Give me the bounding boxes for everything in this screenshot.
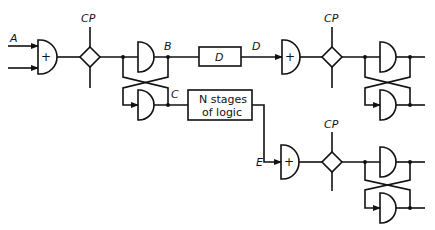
latch-3-and-bottom <box>380 193 396 223</box>
wire-e <box>252 105 281 162</box>
delay-block-label: D <box>215 51 223 64</box>
latch-3-and-top <box>380 147 396 177</box>
logic-block-line1: N stages <box>199 93 247 106</box>
label-c: C <box>171 88 179 101</box>
stage-3: + CP <box>281 118 425 223</box>
label-cp-2: CP <box>324 12 339 25</box>
clock-gate-1 <box>80 47 100 67</box>
latch-2-and-top <box>380 42 396 72</box>
logic-diagram: A + CP B C D D N stages of logic E <box>0 0 435 230</box>
label-cp-3: CP <box>324 118 339 131</box>
label-cp-1: CP <box>81 12 96 25</box>
label-d: D <box>252 40 260 53</box>
or-symbol-1: + <box>41 50 51 64</box>
label-a: A <box>9 32 18 45</box>
clock-gate-2 <box>322 47 342 67</box>
or-symbol-2: + <box>285 50 295 64</box>
latch-2-and-bottom <box>380 90 396 120</box>
label-b: B <box>164 40 172 53</box>
latch-1-and-top <box>138 42 154 72</box>
clock-gate-3 <box>322 152 342 172</box>
stage-2: + CP <box>282 12 425 120</box>
label-e: E <box>256 156 263 169</box>
latch-1-and-bottom <box>138 90 154 120</box>
stage-1: A + CP B C <box>8 12 199 120</box>
or-symbol-3: + <box>284 155 294 169</box>
logic-block-line2: of logic <box>202 106 242 119</box>
